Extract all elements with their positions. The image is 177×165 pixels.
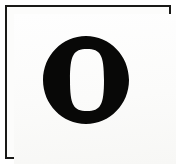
letter-specimen-image: O Capital letter O [0, 0, 177, 165]
glyph-container [7, 7, 169, 157]
letter-o-icon [7, 7, 169, 157]
